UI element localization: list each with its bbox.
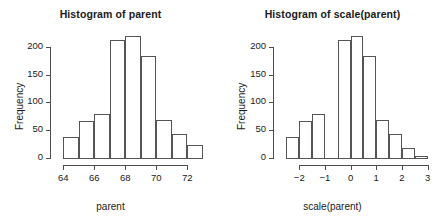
- panel-histogram-scale-parent: Histogram of scale(parent) Frequency sca…: [222, 0, 443, 218]
- bar: [363, 56, 376, 158]
- bar: [187, 145, 203, 158]
- x-tick-right-3: [376, 166, 377, 170]
- y-tick-label-left-0: 0: [17, 151, 43, 162]
- x-tick-left-2: [125, 166, 126, 170]
- y-tick-label-left-4: 200: [17, 40, 43, 51]
- bar: [376, 120, 389, 158]
- plot-title-left: Histogram of parent: [0, 8, 221, 20]
- y-tick-label-left-1: 50: [17, 123, 43, 134]
- y-tick-left-0: [46, 158, 50, 159]
- plot-title-right: Histogram of scale(parent): [222, 8, 443, 20]
- y-tick-label-right-3: 150: [240, 68, 266, 79]
- x-tick-left-3: [156, 166, 157, 170]
- bar-baseline-right: [286, 158, 427, 159]
- x-tick-label-left-0: 64: [48, 172, 78, 183]
- figure-two-histograms: Histogram of parent Frequency parent 050…: [0, 0, 443, 218]
- bar: [338, 40, 351, 158]
- y-axis-line-left: [50, 47, 51, 159]
- y-tick-right-2: [269, 102, 273, 103]
- y-tick-left-1: [46, 130, 50, 131]
- bar: [141, 56, 157, 158]
- bar: [125, 36, 141, 158]
- x-tick-label-left-1: 66: [79, 172, 109, 183]
- y-tick-left-2: [46, 102, 50, 103]
- bar: [94, 114, 110, 158]
- x-tick-right-1: [325, 166, 326, 170]
- bar: [402, 148, 415, 158]
- bar: [286, 137, 299, 158]
- bar: [351, 36, 364, 158]
- bar: [110, 40, 126, 158]
- y-axis-line-right: [273, 47, 274, 159]
- bar-baseline-left: [63, 158, 203, 159]
- bar: [172, 134, 188, 158]
- y-tick-right-4: [269, 47, 273, 48]
- y-tick-right-3: [269, 75, 273, 76]
- x-tick-label-right-5: 3: [413, 172, 443, 183]
- y-tick-left-4: [46, 47, 50, 48]
- y-tick-label-right-0: 0: [240, 151, 266, 162]
- x-tick-right-4: [402, 166, 403, 170]
- x-tick-label-left-2: 68: [110, 172, 140, 183]
- y-tick-label-right-1: 50: [240, 123, 266, 134]
- bar: [79, 121, 95, 158]
- y-tick-right-0: [269, 158, 273, 159]
- x-tick-right-0: [299, 166, 300, 170]
- y-tick-label-right-2: 100: [240, 95, 266, 106]
- x-tick-left-4: [187, 166, 188, 170]
- y-tick-right-1: [269, 130, 273, 131]
- x-tick-right-5: [428, 166, 429, 170]
- x-axis-line-right: [299, 165, 428, 166]
- x-tick-right-2: [351, 166, 352, 170]
- x-tick-label-left-3: 70: [141, 172, 171, 183]
- bar: [156, 120, 172, 158]
- x-axis-title-left: parent: [0, 201, 221, 212]
- bar: [63, 137, 79, 158]
- bar: [389, 134, 402, 158]
- x-axis-title-right: scale(parent): [222, 201, 443, 212]
- panel-histogram-parent: Histogram of parent Frequency parent 050…: [0, 0, 221, 218]
- y-tick-label-left-3: 150: [17, 68, 43, 79]
- x-tick-left-0: [63, 166, 64, 170]
- x-tick-left-1: [94, 166, 95, 170]
- bar: [299, 121, 312, 158]
- y-tick-label-right-4: 200: [240, 40, 266, 51]
- y-tick-left-3: [46, 75, 50, 76]
- bar: [312, 114, 325, 158]
- x-tick-label-left-4: 72: [172, 172, 202, 183]
- y-tick-label-left-2: 100: [17, 95, 43, 106]
